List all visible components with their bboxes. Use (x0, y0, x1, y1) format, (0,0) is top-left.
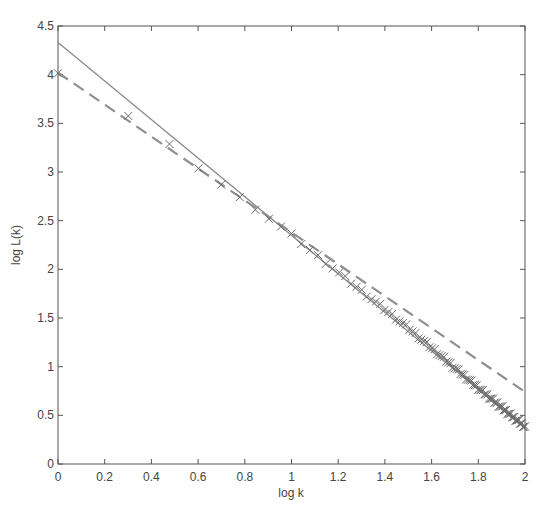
y-tick-label: 2.5 (37, 214, 54, 228)
x-tick-label: 0.6 (190, 470, 207, 484)
x-tick-label: 1.2 (330, 470, 347, 484)
x-tick-label: 0.8 (236, 470, 253, 484)
y-tick-label: 2 (47, 262, 54, 276)
y-tick-label: 0 (47, 457, 54, 471)
plot-area (58, 26, 525, 464)
x-tick-label: 0.2 (96, 470, 113, 484)
x-tick-label: 0 (55, 470, 62, 484)
x-tick-label: 0.4 (143, 470, 160, 484)
x-tick-label: 1.6 (423, 470, 440, 484)
x-tick-label: 1.8 (470, 470, 487, 484)
y-tick-label: 3.5 (37, 116, 54, 130)
y-tick-label: 3 (47, 165, 54, 179)
y-tick-label: 1 (47, 360, 54, 374)
x-tick-label: 2 (522, 470, 529, 484)
y-tick-label: 1.5 (37, 311, 54, 325)
y-tick-label: 0.5 (37, 408, 54, 422)
x-tick-label: 1.4 (377, 470, 394, 484)
chart: 00.20.40.60.811.21.41.61.82 00.511.522.5… (0, 0, 541, 518)
y-tick-label: 4 (47, 68, 54, 82)
x-axis-label: log k (278, 486, 304, 500)
y-axis-label: log L(k) (9, 225, 23, 265)
y-tick-label: 4.5 (37, 19, 54, 33)
x-tick-label: 1 (288, 470, 295, 484)
